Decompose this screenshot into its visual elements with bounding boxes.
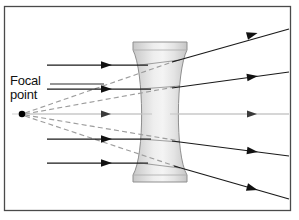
focal-point-marker <box>19 111 26 118</box>
diverging-lens-figure: Focal point <box>0 0 299 220</box>
focal-point-label-line1: Focal <box>10 74 66 88</box>
focal-point-label: Focal point <box>10 74 66 102</box>
focal-point-label-line2: point <box>10 88 66 102</box>
diagram-canvas <box>0 0 299 220</box>
